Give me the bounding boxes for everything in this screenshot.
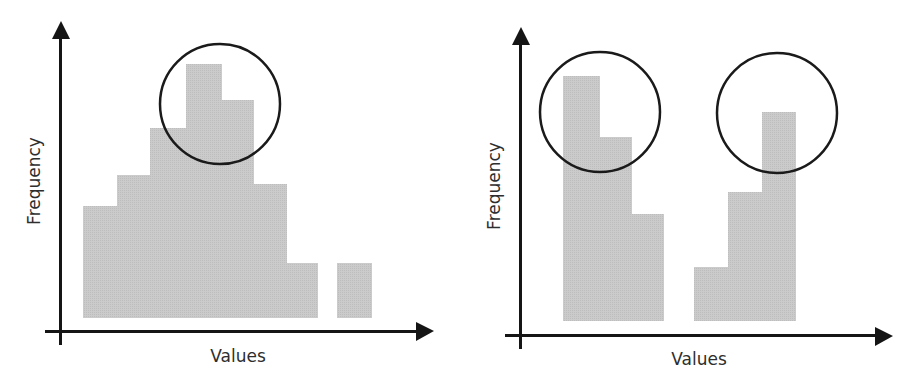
histogram-bar [762, 112, 796, 321]
left-y-axis [52, 21, 70, 345]
left-x-axis-label: Values [210, 346, 266, 366]
left-histogram-chart: Frequency Values [24, 21, 434, 366]
left-x-axis [45, 322, 434, 341]
histogram-comparison-figure: Frequency Values Frequency Values [0, 0, 916, 386]
right-histogram-bars [563, 76, 796, 321]
histogram-bar [222, 100, 254, 318]
right-y-axis [512, 27, 530, 349]
histogram-bar [186, 64, 222, 318]
x-axis-arrow-icon [875, 327, 893, 346]
histogram-bar [337, 263, 372, 318]
histogram-bar [117, 175, 150, 318]
right-histogram-chart: Frequency Values [484, 27, 893, 369]
y-axis-arrow-icon [512, 27, 530, 45]
histogram-bar [287, 263, 318, 318]
x-axis-arrow-icon [416, 322, 434, 341]
left-histogram-bars [83, 64, 372, 318]
histogram-bar [563, 76, 600, 321]
right-y-axis-label: Frequency [484, 142, 504, 230]
histogram-bar [728, 192, 762, 321]
histogram-bar [83, 206, 117, 318]
left-y-axis-label: Frequency [24, 137, 44, 225]
histogram-bar [694, 267, 728, 321]
histogram-bar [150, 128, 186, 318]
histogram-bar [254, 184, 287, 318]
histogram-bar [632, 214, 664, 321]
right-x-axis-label: Values [671, 349, 727, 369]
y-axis-arrow-icon [52, 21, 70, 39]
right-x-axis [505, 327, 893, 346]
